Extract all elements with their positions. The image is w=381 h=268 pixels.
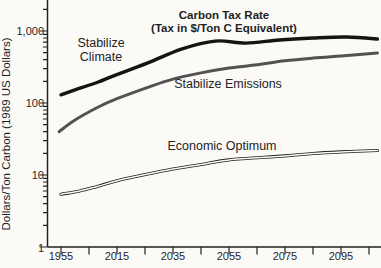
x-tick-label-2095: 2095: [329, 250, 353, 262]
y-tick-label-10: 10: [32, 169, 44, 181]
chart-background: [0, 0, 381, 268]
x-tick-label-1955: 1955: [49, 250, 73, 262]
figure: Carbon Tax Rate (Tax in $/Ton C Equivale…: [0, 0, 381, 268]
y-tick-label-1: 1: [38, 242, 44, 254]
chart-svg: Carbon Tax Rate (Tax in $/Ton C Equivale…: [0, 0, 381, 268]
y-tick-label-1000: 1,000: [16, 25, 44, 37]
series-label-stabilize-emissions: Stabilize Emissions: [174, 77, 282, 91]
chart-title: Carbon Tax Rate: [179, 9, 270, 21]
x-tick-label-2055: 2055: [217, 250, 241, 262]
y-axis-title: Dollars/Ton Carbon (1989 US Dollars): [0, 37, 12, 230]
y-tick-label-100: 100: [26, 97, 44, 109]
x-tick-label-2035: 2035: [161, 250, 185, 262]
series-label-stabilize-climate-line2: Climate: [80, 50, 122, 64]
x-tick-label-2075: 2075: [273, 250, 297, 262]
chart-subtitle: (Tax in $/Ton C Equivalent): [151, 22, 297, 34]
series-label-economic-optimum: Economic Optimum: [167, 139, 276, 153]
x-tick-label-2015: 2015: [105, 250, 129, 262]
series-label-stabilize-climate-line1: Stabilize: [77, 36, 124, 50]
